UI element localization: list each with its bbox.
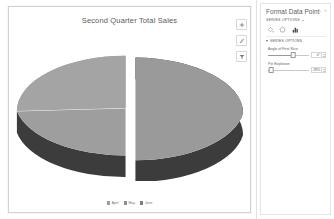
pie-slice-june-top[interactable] — [17, 56, 126, 111]
filter-icon — [239, 54, 245, 60]
angle-of-first-slice-slider[interactable] — [268, 53, 309, 58]
angle-of-first-slice-label: Angle of First Slice — [268, 47, 326, 51]
pane-header: Format Data Point – × — [266, 8, 326, 15]
pie-explosion-row: 28% — [268, 67, 326, 73]
worksheet-area: Second Quarter Total Sales — [0, 0, 256, 219]
fill-and-line-icon[interactable] — [266, 25, 274, 33]
chevron-down-icon — [266, 40, 268, 42]
chart-elements-button[interactable] — [236, 19, 247, 30]
series-options-icon[interactable] — [291, 25, 299, 33]
legend-swatch-icon — [140, 201, 144, 205]
pie-explosion-stepper[interactable]: 28% — [311, 67, 326, 73]
brush-icon — [239, 38, 245, 44]
series-options-section-header[interactable]: SERIES OPTIONS — [266, 39, 326, 43]
chart-styles-button[interactable] — [236, 35, 247, 46]
slider-thumb[interactable] — [269, 67, 274, 74]
pentagon-glyph — [279, 26, 286, 33]
pane-frame: Format Data Point – × SERIES OPTIONS — [260, 3, 331, 215]
chevron-down-icon — [302, 20, 304, 21]
paint-bucket-glyph — [267, 26, 274, 33]
close-icon[interactable]: × — [324, 9, 326, 13]
series-options-dropdown-label: SERIES OPTIONS — [266, 18, 300, 22]
pane-icon-tabs — [266, 25, 326, 35]
pane-header-controls: – × — [320, 8, 327, 13]
chart-filters-button[interactable] — [236, 51, 247, 62]
pane-divider — [266, 36, 326, 37]
legend-swatch-icon — [107, 201, 111, 205]
pie-explosion-value[interactable]: 28% — [311, 67, 322, 73]
plus-icon — [239, 22, 245, 28]
pane-title: Format Data Point — [266, 8, 320, 15]
angle-of-first-slice-value[interactable]: 0° — [311, 52, 322, 58]
legend-item[interactable]: April — [107, 201, 119, 205]
stepper-arrows[interactable] — [322, 67, 326, 73]
pie-explosion-field: Pie Explosion 28% — [266, 62, 326, 74]
pie-explosion-label: Pie Explosion — [268, 62, 326, 66]
legend-item[interactable]: June — [140, 201, 152, 205]
angle-of-first-slice-field: Angle of First Slice 0° — [266, 47, 326, 59]
legend-label: April — [112, 201, 119, 205]
pie-slice-group-left[interactable] — [17, 56, 126, 177]
pane-content: Format Data Point – × SERIES OPTIONS — [261, 4, 330, 214]
pie-3d-graphic[interactable] — [9, 31, 250, 181]
excel-chart-window: Second Quarter Total Sales — [0, 0, 334, 219]
stepper-down-button[interactable] — [322, 55, 325, 57]
stepper-arrows[interactable] — [322, 52, 326, 58]
chart-object[interactable]: Second Quarter Total Sales — [8, 6, 251, 213]
slider-track — [268, 70, 309, 71]
format-data-point-pane: Format Data Point – × SERIES OPTIONS — [256, 0, 334, 219]
chart-legend[interactable]: April May June — [9, 201, 250, 205]
series-options-section-label: SERIES OPTIONS — [270, 39, 302, 43]
slider-fill — [268, 55, 293, 56]
pie-plot-area[interactable] — [9, 31, 250, 181]
pie-slice-group-right[interactable] — [135, 58, 243, 181]
chart-title[interactable]: Second Quarter Total Sales — [9, 16, 250, 25]
angle-of-first-slice-row: 0° — [268, 52, 326, 58]
pie-explosion-slider[interactable] — [268, 68, 309, 73]
legend-swatch-icon — [124, 201, 128, 205]
minimize-icon[interactable]: – — [320, 9, 322, 13]
effects-icon[interactable] — [279, 25, 287, 33]
caret-down-icon — [323, 56, 325, 57]
legend-label: May — [129, 201, 135, 205]
angle-of-first-slice-stepper[interactable]: 0° — [311, 52, 326, 58]
legend-item[interactable]: May — [124, 201, 135, 205]
slider-thumb[interactable] — [291, 52, 296, 59]
caret-down-icon — [323, 71, 325, 72]
legend-label: June — [145, 201, 152, 205]
column-chart-glyph — [292, 26, 299, 33]
stepper-down-button[interactable] — [322, 70, 325, 72]
series-options-dropdown[interactable]: SERIES OPTIONS — [266, 18, 326, 22]
chart-side-buttons — [236, 19, 247, 62]
